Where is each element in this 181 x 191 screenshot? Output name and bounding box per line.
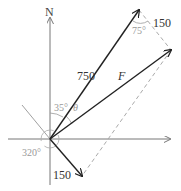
angle-arc-35 bbox=[50, 113, 63, 117]
dashed-side-right bbox=[82, 50, 171, 176]
resultant-F-label: F bbox=[117, 69, 126, 83]
magnitude-150-label: 150 bbox=[53, 168, 71, 182]
vector-resultant-F bbox=[50, 50, 171, 139]
magnitude-750-label: 750 bbox=[77, 69, 95, 83]
angle-arc-75 bbox=[133, 21, 148, 23]
north-label: N bbox=[45, 5, 54, 19]
vector-diagram: N 750 35° θ F 150 75° 320° 150 bbox=[0, 0, 181, 191]
angle-75-label: 75° bbox=[132, 25, 146, 36]
parallelogram-150-label: 150 bbox=[153, 16, 171, 30]
bearing-320-label: 320° bbox=[22, 147, 41, 158]
bearing-35-label: 35° bbox=[54, 102, 68, 113]
theta-label: θ bbox=[73, 102, 78, 113]
reference-line bbox=[22, 105, 50, 139]
